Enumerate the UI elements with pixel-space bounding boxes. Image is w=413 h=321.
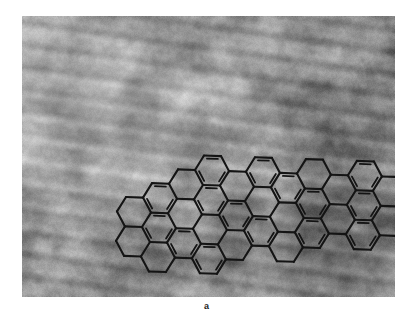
electron-micrograph-panel (22, 16, 395, 297)
micrograph-image (22, 16, 395, 297)
panel-label-a: a (0, 301, 413, 312)
figure-root: a (0, 0, 413, 321)
